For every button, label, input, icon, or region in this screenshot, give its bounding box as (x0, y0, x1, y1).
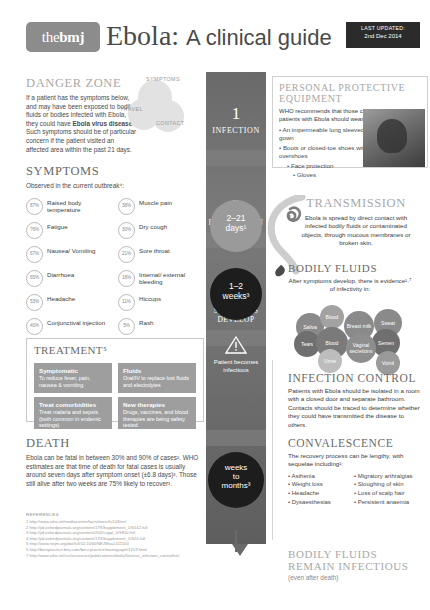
symptom-percent: 11% (119, 295, 134, 309)
symptom-item: 76%Fatigue (26, 222, 114, 243)
symptom-percent: 21% (119, 247, 134, 261)
transmission-heading: TRANSMISSION (296, 196, 416, 211)
treatment-box: TREATMENT⁵ Symptomatic To reduce fever, … (26, 338, 204, 422)
bodily-fluids-section: BODILY FLUIDS After symptoms develop, th… (288, 262, 424, 293)
bodily-fluids-bubbles: Saliva Blood Breast milk Sweat Tears Blo… (296, 305, 426, 367)
symptom-label: Nausea/ Vomiting (47, 247, 96, 254)
convalescence-row: • Headache• Loss of scalp hair (288, 489, 428, 498)
danger-zone-bubbles: SYMPTOMS TRAVEL CONTACT (126, 78, 206, 136)
symptom-item: 65%Diarrhoea (26, 270, 114, 291)
stage-infection: 1 INFECTION (206, 104, 266, 135)
symptom-percent-circle: 5% (118, 318, 135, 335)
symptom-percent-circle: 87% (26, 198, 43, 215)
convalescence-item: • Weight loss (288, 480, 354, 489)
convalescence-heading: CONVALESCENCE (288, 437, 428, 449)
infection-control-body: Patients with Ebola should be isolated i… (288, 387, 422, 429)
symptom-label: Diarrhoea (47, 271, 74, 278)
pill-line-3: months³ (208, 481, 264, 490)
pill-line-2: to (208, 472, 264, 481)
symptom-percent: 87% (27, 199, 42, 213)
convalescence-row: • Dysaesthesias• Persistent anaemia (288, 498, 428, 507)
symptom-label: Sore throat (139, 247, 170, 254)
convalescence-row: • Asthenia• Migratory arthralgias (288, 472, 428, 481)
footer-line-3: (even after death) (288, 574, 428, 581)
treatment-cell-comorbidities: Treat comorbidities Treat malaria and se… (34, 397, 112, 429)
treatment-cell-symptomatic: Symptomatic To reduce fever, pain, nause… (34, 363, 112, 393)
treatment-cell-body: Treat malaria and sepsis (both common in… (39, 409, 107, 429)
symptom-percent: 5% (119, 319, 134, 333)
treatment-cell-body: Drugs, vaccines, and blood therapies are… (123, 409, 191, 429)
danger-zone-body: If a patient has the symptoms below, and… (26, 94, 138, 154)
symptom-percent: 18% (119, 271, 134, 285)
symptom-item: 53%Headache (26, 294, 114, 315)
pill-line-2: days¹ (210, 223, 262, 233)
last-updated-badge: LAST UPDATED: 2nd Dec 2014 (346, 22, 420, 48)
fluid-urine: Urine (318, 349, 342, 373)
symptom-percent-circle: 18% (118, 270, 135, 287)
title-sub: A clinical guide (186, 25, 332, 50)
symptoms-subheading: Observed in the current outbreak⁴: (26, 182, 204, 189)
ppe-list: • An impermeable long sleeved gown • Boo… (279, 126, 371, 179)
right-column-rule (272, 360, 273, 540)
infectious-note: Patient becomes infectious (208, 358, 264, 374)
convalescence-item: • Persistent anaemia (354, 498, 420, 507)
death-heading: DEATH (26, 436, 206, 451)
symptom-label: Dry cough (139, 223, 167, 230)
last-updated-label: LAST UPDATED: (346, 25, 420, 31)
symptom-percent-circle: 76% (26, 222, 43, 239)
death-section: DEATH Ebola can be fatal in between 30% … (26, 436, 206, 488)
symptom-item: 18%Internal/ external bleeding (118, 270, 206, 291)
ppe-item: • Gloves (293, 171, 371, 179)
symptom-percent-circle: 40% (26, 318, 43, 335)
healthcare-worker-photo (363, 109, 425, 167)
footer-line-1: BODILY FLUIDS (288, 548, 428, 560)
left-column: DANGER ZONE SYMPTOMS TRAVEL CONTACT If a… (26, 76, 204, 193)
symptom-item: 67%Nausea/ Vomiting (26, 246, 114, 267)
bubble-label-symptoms: SYMPTOMS (146, 76, 180, 82)
treatment-cell-title: Symptomatic (39, 367, 107, 374)
stage-label: INFECTION (206, 126, 266, 135)
convalescence-item: • Loss of scalp hair (354, 489, 420, 498)
treatment-cell-body: To reduce fever, pain, nausea & vomiting (39, 375, 107, 388)
bmj-logo: thebmj (26, 22, 100, 52)
treatment-cell-title: New therapies (123, 401, 191, 408)
death-body: Ebola can be fatal in between 30% and 90… (26, 454, 206, 488)
convalescence-item: • Sloughing of skin (354, 480, 420, 489)
symptom-percent-circle: 30% (118, 222, 135, 239)
convalescence-item: • Headache (288, 489, 354, 498)
symptom-label: Rash (139, 319, 153, 326)
fluid-blood-top: Blood (320, 305, 344, 329)
title-lead: Ebola: (106, 20, 179, 51)
ppe-heading-line-2: EQUIPMENT (279, 93, 421, 104)
convalescence-row: • Weight loss• Sloughing of skin (288, 480, 428, 489)
fluid-vaginal-secretions: Vaginal secretions (346, 333, 376, 363)
symptoms-duration-pill: 1–2 weeks³ (210, 268, 262, 320)
treatment-cell-body: Oral/IV to replace lost fluids and elect… (123, 375, 191, 388)
symptom-percent: 53% (27, 295, 42, 309)
pill-line-1: weeks (208, 463, 264, 472)
ppe-item: • An impermeable long sleeved gown (279, 126, 371, 143)
pill-line-2: weeks³ (210, 291, 262, 301)
symptom-percent: 67% (27, 247, 42, 261)
infection-control-heading: INFECTION CONTROL (288, 372, 422, 384)
convalescence-item: • Asthenia (288, 472, 354, 481)
treatment-cell-title: Fluids (123, 367, 191, 374)
symptom-label: Raised body temperature (47, 199, 114, 214)
footer-line-2: REMAIN INFECTIOUS (288, 560, 428, 572)
convalescence-item: • Migratory arthralgias (354, 472, 420, 481)
treatment-heading: TREATMENT⁵ (34, 344, 203, 356)
symptom-percent: 38% (119, 199, 134, 213)
warning-triangle-icon (225, 336, 247, 354)
spine-chevron (206, 150, 266, 166)
ppe-box: PERSONAL PROTECTIVE EQUIPMENT WHO recomm… (272, 76, 428, 168)
bmj-logo-text: thebmj (26, 22, 100, 52)
symptom-item: 38%Muscle pain (118, 198, 206, 219)
convalescence-item: • Dysaesthesias (288, 498, 354, 507)
convalescence-section: CONVALESCENCE The recovery process can b… (288, 437, 428, 506)
footer-note: BODILY FLUIDS REMAIN INFECTIOUS (even af… (288, 548, 428, 581)
symptom-percent-circle: 53% (26, 294, 43, 311)
page-title: Ebola: A clinical guide (106, 20, 332, 52)
symptom-percent-circle: 67% (26, 246, 43, 263)
ppe-item: • Boots or closed-toe shoes with oversho… (279, 144, 371, 161)
symptom-label: Internal/ external bleeding (139, 271, 206, 286)
